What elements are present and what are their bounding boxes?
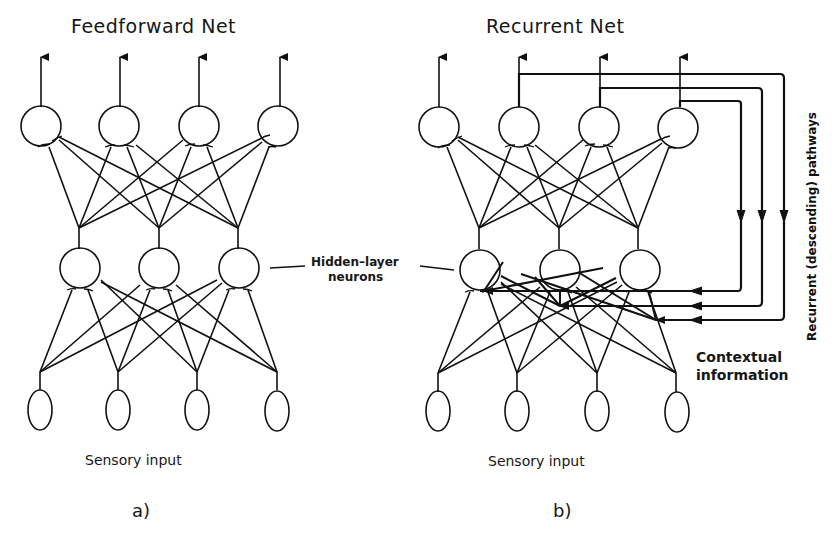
recurrent-net xyxy=(419,57,698,432)
hidden-layer-neurons xyxy=(460,250,660,290)
hidden-layer-label-line1: Hidden–layer xyxy=(311,255,399,269)
hidden-to-output-connections xyxy=(49,137,269,249)
feedforward-title: Feedforward Net xyxy=(71,15,236,37)
hidden-synapse-marks xyxy=(67,289,252,291)
recurrent-pathways xyxy=(484,74,788,324)
hidden-layer-label-line2: neurons xyxy=(328,270,383,284)
panel-label-b: b) xyxy=(553,500,571,521)
contextual-label-line2: information xyxy=(696,367,789,383)
synapse-marks xyxy=(438,136,676,148)
sensory-input-label-b: Sensory input xyxy=(488,453,585,469)
feedforward-net xyxy=(21,57,298,431)
hidden-to-output-connections xyxy=(447,137,669,249)
sensory-input-label-a: Sensory input xyxy=(85,452,182,468)
recurrent-pathways-label: Recurrent (descending) pathways xyxy=(805,112,819,341)
hidden-layer-neurons xyxy=(60,248,259,288)
recurrent-title: Recurrent Net xyxy=(486,15,624,37)
input-to-hidden-connections xyxy=(40,280,277,390)
output-arrows xyxy=(41,57,280,107)
output-arrows xyxy=(439,57,680,107)
contextual-label-line1: Contextual xyxy=(696,349,782,365)
input-layer-neurons xyxy=(28,390,289,431)
input-layer-neurons xyxy=(426,391,689,432)
panel-label-a: a) xyxy=(132,500,150,521)
input-to-hidden-connections xyxy=(438,282,676,392)
